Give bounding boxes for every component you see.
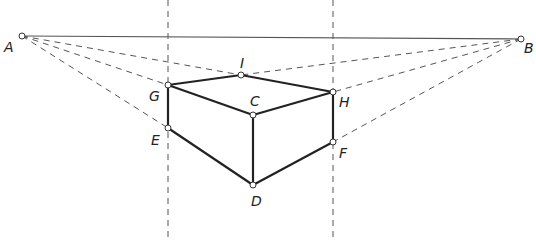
construction-line-B-I: [241, 39, 521, 75]
point-c-marker: [250, 112, 256, 118]
point-g-marker: [165, 82, 171, 88]
point-label-i: I: [240, 56, 244, 70]
construction-line-B-H: [333, 39, 521, 92]
point-d-marker: [250, 182, 256, 188]
construction-line-B-F: [333, 39, 521, 142]
construction-line-A-I: [22, 36, 241, 75]
point-h-marker: [330, 89, 336, 95]
edge-G-C: [168, 85, 253, 115]
point-e-marker: [165, 125, 171, 131]
perspective-diagram: ABIGHCEFD: [0, 0, 536, 243]
construction-line-A-G: [22, 36, 168, 85]
point-label-d: D: [251, 194, 262, 208]
point-label-h: H: [339, 95, 350, 109]
diagram-canvas: [0, 0, 536, 243]
point-label-a: A: [4, 40, 14, 54]
point-label-e: E: [151, 133, 160, 147]
point-label-b: B: [524, 41, 534, 55]
point-f-marker: [330, 139, 336, 145]
point-i-marker: [238, 72, 244, 78]
edge-G-I: [168, 75, 241, 85]
edge-E-D: [168, 128, 253, 185]
horizon-line: [22, 36, 521, 39]
construction-line-A-E: [22, 36, 168, 128]
edge-F-D: [253, 142, 333, 185]
edge-I-H: [241, 75, 333, 92]
point-label-f: F: [339, 146, 347, 160]
point-label-c: C: [250, 94, 260, 108]
point-label-g: G: [149, 89, 160, 103]
point-a-marker: [19, 33, 25, 39]
edge-C-H: [253, 92, 333, 115]
